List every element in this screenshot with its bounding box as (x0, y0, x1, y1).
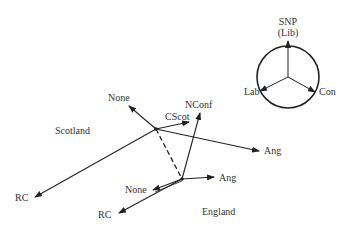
england-none-label: None (125, 184, 147, 195)
con-label: Con (319, 86, 336, 97)
england-ang-label: Ang (219, 172, 236, 183)
scotland-none-arrow (129, 106, 156, 129)
scotland-ang-label: Ang (264, 145, 281, 156)
england-ang-arrow (182, 177, 214, 179)
lab-arrow (260, 77, 288, 91)
lab-label: Lab (244, 86, 260, 97)
con-arrow (288, 77, 315, 92)
party-legend: SNP (Lib) Lab Con (244, 16, 336, 108)
scotland-cscot-arrow (156, 122, 189, 129)
scotland-cscot-label: CScot (165, 111, 190, 122)
scotland-ang-arrow (156, 129, 259, 151)
scotland-rc-label: RC (15, 192, 29, 203)
lib-label: (Lib) (278, 27, 299, 39)
england-region-label: England (202, 206, 235, 217)
scotland-vectors: None CScot Ang RC (15, 92, 281, 203)
england-rc-label: RC (98, 209, 112, 220)
snp-label: SNP (279, 16, 298, 27)
denomination-party-diagram: SNP (Lib) Lab Con None CScot Ang RC NCon… (0, 0, 354, 232)
scotland-england-connector (156, 129, 182, 179)
england-nconf-label: NConf (185, 99, 213, 110)
scotland-region-label: Scotland (55, 125, 90, 136)
england-none-arrow (153, 179, 182, 190)
scotland-none-label: None (108, 92, 130, 103)
